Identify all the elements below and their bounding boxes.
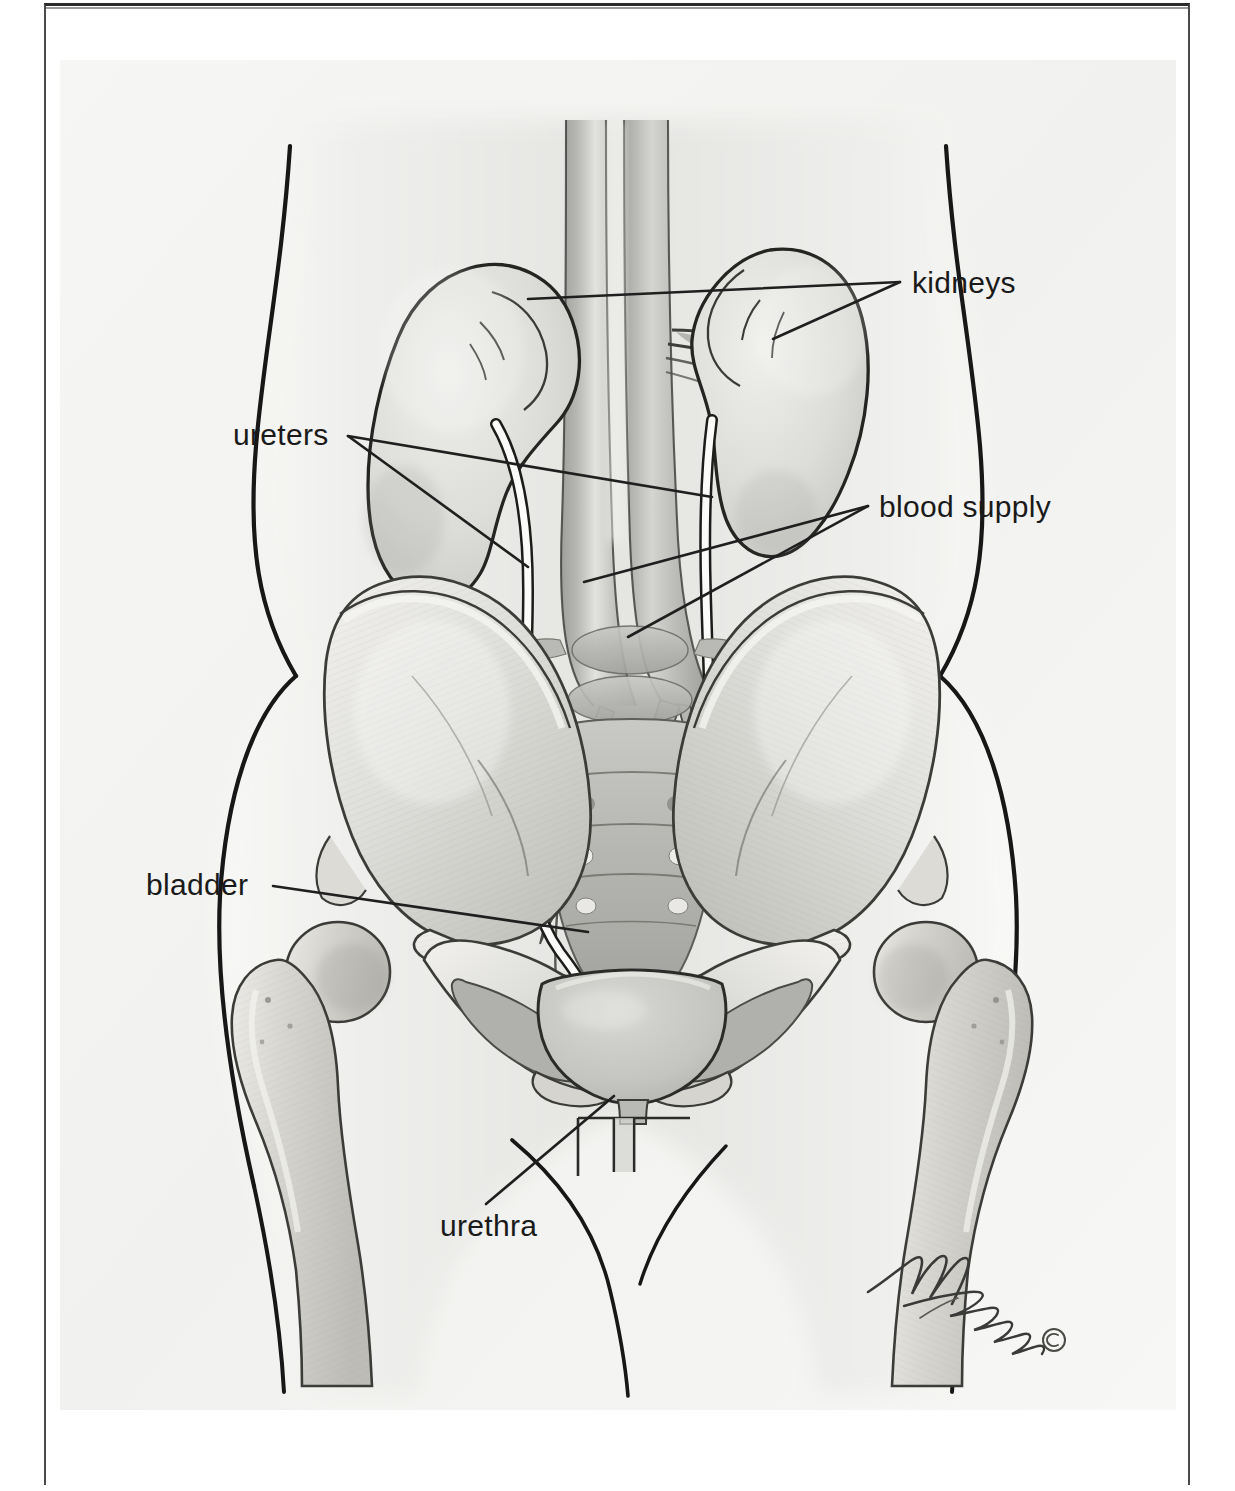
label-urethra: urethra xyxy=(440,1211,537,1241)
anatomy-artwork-svg xyxy=(0,0,1235,1491)
label-bladder: bladder xyxy=(146,870,248,900)
label-kidneys: kidneys xyxy=(912,268,1016,298)
label-ureters: ureters xyxy=(233,420,328,450)
label-blood-supply: blood supply xyxy=(879,492,1051,522)
anatomy-illustration xyxy=(0,0,1235,1491)
urethra-lumen xyxy=(615,1118,633,1172)
